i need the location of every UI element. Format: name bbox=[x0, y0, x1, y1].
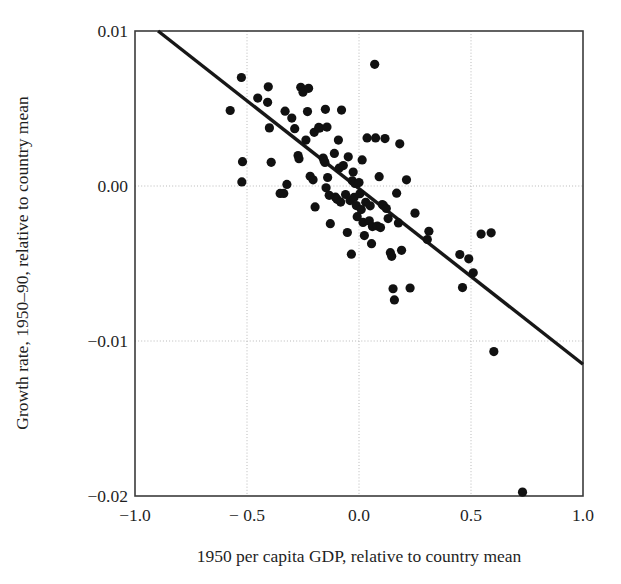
data-point bbox=[375, 172, 384, 181]
data-point bbox=[397, 246, 406, 255]
x-axis-tick-labels: −1.0− 0.50.00.51.0 bbox=[119, 505, 594, 525]
data-point bbox=[455, 250, 464, 259]
data-point bbox=[337, 105, 346, 114]
data-point bbox=[280, 107, 289, 116]
data-points bbox=[226, 60, 528, 497]
data-point bbox=[392, 189, 401, 198]
y-tick-label: −0.02 bbox=[88, 486, 129, 506]
data-point bbox=[282, 180, 291, 189]
data-point bbox=[390, 295, 399, 304]
x-tick-label: 1.0 bbox=[572, 505, 594, 525]
data-point bbox=[308, 175, 317, 184]
regression-trend-line bbox=[158, 31, 583, 364]
data-point bbox=[287, 114, 296, 123]
data-point bbox=[355, 189, 364, 198]
data-point bbox=[362, 133, 371, 142]
data-point bbox=[382, 204, 391, 213]
data-point bbox=[226, 106, 235, 115]
data-point bbox=[405, 283, 414, 292]
data-point bbox=[347, 250, 356, 259]
data-point bbox=[290, 124, 299, 133]
data-point bbox=[267, 158, 276, 167]
data-point bbox=[370, 60, 379, 69]
data-point bbox=[349, 167, 358, 176]
data-point bbox=[303, 107, 312, 116]
data-point bbox=[388, 284, 397, 293]
data-point bbox=[410, 209, 419, 218]
data-point bbox=[487, 228, 496, 237]
data-point bbox=[320, 158, 329, 167]
data-point bbox=[322, 123, 331, 132]
data-point bbox=[458, 283, 467, 292]
grid-lines bbox=[135, 31, 583, 496]
data-point bbox=[330, 149, 339, 158]
data-point bbox=[469, 268, 478, 277]
data-point bbox=[371, 133, 380, 142]
data-point bbox=[489, 347, 498, 356]
data-point bbox=[367, 239, 376, 248]
data-point bbox=[264, 82, 273, 91]
data-point bbox=[237, 73, 246, 82]
data-point bbox=[358, 155, 367, 164]
chart-canvas: −1.0− 0.50.00.51.0 0.010.00−0.01−0.02 19… bbox=[0, 0, 621, 584]
data-point bbox=[360, 231, 369, 240]
data-point bbox=[402, 175, 411, 184]
data-point bbox=[380, 134, 389, 143]
data-point bbox=[253, 94, 262, 103]
data-point bbox=[366, 201, 375, 210]
data-point bbox=[384, 214, 393, 223]
y-axis-title: Growth rate, 1950–90, relative to countr… bbox=[12, 96, 32, 430]
data-point bbox=[301, 136, 310, 145]
data-point bbox=[336, 198, 345, 207]
data-point bbox=[424, 227, 433, 236]
y-tick-label: 0.01 bbox=[97, 21, 128, 41]
x-tick-label: 0.0 bbox=[348, 505, 370, 525]
x-tick-label: − 0.5 bbox=[229, 505, 265, 525]
data-point bbox=[354, 178, 363, 187]
data-point bbox=[323, 173, 332, 182]
data-point bbox=[263, 98, 272, 107]
y-tick-label: 0.00 bbox=[97, 176, 128, 196]
data-point bbox=[294, 154, 303, 163]
scatter-plot-figure: −1.0− 0.50.00.51.0 0.010.00−0.01−0.02 19… bbox=[0, 0, 621, 584]
x-axis-title: 1950 per capita GDP, relative to country… bbox=[197, 546, 522, 566]
data-point bbox=[518, 488, 527, 497]
y-axis-tick-labels: 0.010.00−0.01−0.02 bbox=[88, 21, 129, 506]
data-point bbox=[310, 202, 319, 211]
data-point bbox=[265, 123, 274, 132]
data-point bbox=[334, 136, 343, 145]
data-point bbox=[339, 161, 348, 170]
data-point bbox=[321, 105, 330, 114]
y-tick-label: −0.01 bbox=[88, 331, 129, 351]
data-point bbox=[476, 229, 485, 238]
data-point bbox=[344, 152, 353, 161]
data-point bbox=[394, 218, 403, 227]
data-point bbox=[395, 139, 404, 148]
x-tick-label: −1.0 bbox=[119, 505, 151, 525]
data-point bbox=[387, 252, 396, 261]
data-point bbox=[343, 228, 352, 237]
x-tick-label: 0.5 bbox=[460, 505, 482, 525]
data-point bbox=[279, 189, 288, 198]
data-point bbox=[423, 235, 432, 244]
data-point bbox=[304, 84, 313, 93]
data-point bbox=[376, 223, 385, 232]
data-point bbox=[237, 177, 246, 186]
data-point bbox=[464, 254, 473, 263]
data-point bbox=[326, 219, 335, 228]
data-point bbox=[238, 157, 247, 166]
